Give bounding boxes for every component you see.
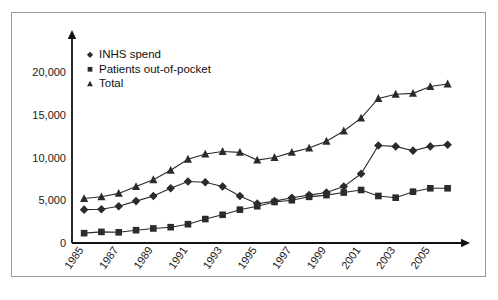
data-series [80,80,452,202]
y-axis-tick-labels: 05,00010,00015,00020,000 [32,66,66,249]
y-tick-label: 5,000 [38,194,66,206]
line-chart: 05,00010,00015,00020,000 198519871989199… [0,0,498,300]
y-tick-label: 15,000 [32,109,66,121]
legend-label: INHS spend [99,48,161,60]
x-tick-label: 2003 [373,244,397,271]
legend-label: Total [99,77,123,89]
legend-item: Total [87,77,123,89]
y-tick-label: 10,000 [32,152,66,164]
legend-item: Patients out-of-pocket [88,63,212,75]
x-tick-label: 1991 [166,244,190,271]
chart-plot-area: 05,00010,00015,00020,000 198519871989199… [0,0,498,300]
y-tick-label: 20,000 [32,66,66,78]
x-axis-tick-labels: 1985198719891991199319951997199920012003… [62,244,432,271]
data-series [80,140,452,214]
y-tick-label: 0 [60,237,66,249]
x-tick-label: 2001 [339,244,363,271]
legend-item: INHS spend [87,48,161,60]
x-tick-label: 1989 [131,244,155,271]
chart-legend: INHS spendPatients out-of-pocketTotal [87,48,212,89]
x-tick-label: 1987 [97,244,121,271]
x-tick-label: 2005 [408,244,432,271]
x-tick-label: 1999 [304,244,328,271]
data-series [81,185,451,236]
x-tick-label: 1995 [235,244,259,271]
legend-label: Patients out-of-pocket [99,63,212,75]
x-tick-label: 1997 [270,244,294,271]
chart-page: 05,00010,00015,00020,000 198519871989199… [0,0,498,300]
x-tick-label: 1993 [200,244,224,271]
data-series-layer [80,80,452,237]
